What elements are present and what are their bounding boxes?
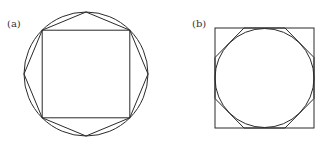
figure-b-drawing bbox=[0, 0, 323, 148]
figure-b-inscribed-circle bbox=[215, 29, 314, 128]
figure-b-circumscribed-octagon bbox=[215, 28, 314, 128]
